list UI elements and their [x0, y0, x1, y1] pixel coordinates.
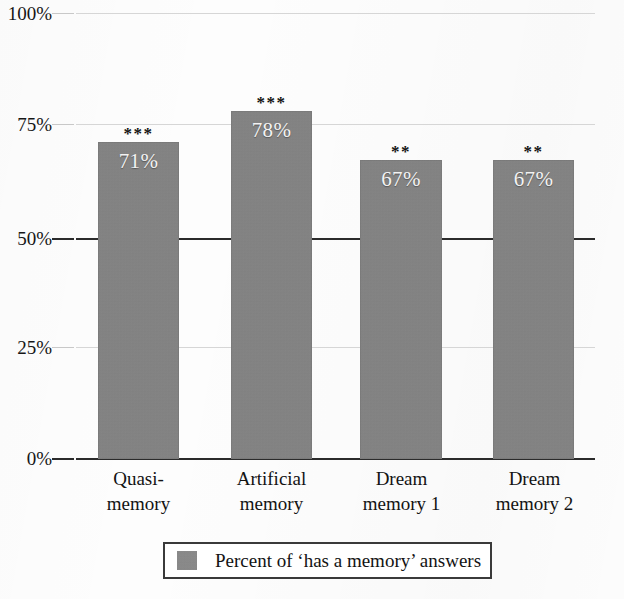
category-label-line1: Dream [473, 466, 596, 491]
category-label-line1: Quasi- [78, 466, 199, 491]
bar-dream-memory-1[interactable]: 67% [360, 160, 442, 459]
tick-stub-75 [52, 124, 74, 125]
tick-stub-50 [52, 238, 74, 240]
tick-stub-0 [52, 458, 74, 460]
bar-chart-figure: 100% 75% 50% 25% 0% 71% *** 78% *** 67% … [0, 0, 624, 599]
legend-label: Percent of ‘has a memory’ answers [215, 550, 481, 572]
category-label-line2: memory [211, 491, 332, 516]
gridline-100 [76, 13, 595, 14]
category-label-dream-memory-2: Dream memory 2 [473, 466, 596, 516]
bar-quasi-memory[interactable]: 71% [98, 142, 179, 459]
y-axis-label-50: 50% [0, 228, 52, 250]
tick-stub-25 [52, 347, 74, 348]
bar-significance-quasi-memory: *** [98, 125, 179, 142]
category-label-line1: Dream [340, 466, 463, 491]
bar-significance-dream-memory-1: ** [360, 143, 442, 160]
plot-area: 100% 75% 50% 25% 0% 71% *** 78% *** 67% … [76, 13, 595, 459]
y-axis-label-75: 75% [0, 114, 52, 136]
bar-value-label: 67% [360, 167, 442, 192]
bar-value-label: 78% [231, 118, 312, 143]
category-label-line2: memory [78, 491, 199, 516]
category-label-line2: memory 1 [340, 491, 463, 516]
bar-dream-memory-2[interactable]: 67% [493, 160, 574, 459]
legend-color-swatch [177, 551, 197, 570]
y-axis-label-25: 25% [0, 337, 52, 359]
category-label-line2: memory 2 [473, 491, 596, 516]
y-axis-label-0: 0% [0, 448, 52, 470]
chart-legend: Percent of ‘has a memory’ answers [163, 542, 492, 579]
bar-significance-dream-memory-2: ** [493, 143, 574, 160]
category-label-quasi-memory: Quasi- memory [78, 466, 199, 516]
bar-value-label: 71% [98, 149, 179, 174]
category-label-artificial-memory: Artificial memory [211, 466, 332, 516]
category-label-line1: Artificial [211, 466, 332, 491]
tick-stub-100 [52, 13, 74, 14]
bar-artificial-memory[interactable]: 78% [231, 111, 312, 459]
bar-significance-artificial-memory: *** [231, 94, 312, 111]
y-axis-label-100: 100% [0, 3, 52, 25]
category-label-dream-memory-1: Dream memory 1 [340, 466, 463, 516]
bar-value-label: 67% [493, 167, 574, 192]
